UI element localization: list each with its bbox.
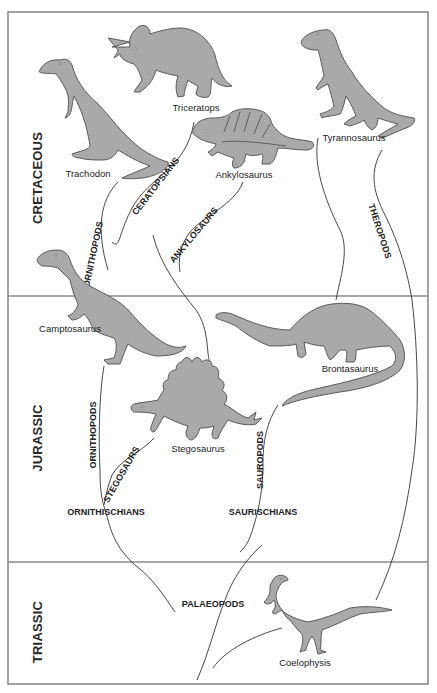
brontasaurus-label: Brontasaurus bbox=[322, 363, 379, 374]
group-label-ornithopods-lower: ORNITHOPODS bbox=[88, 401, 98, 468]
triceratops-label: Triceratops bbox=[172, 102, 219, 113]
stegosaurus-label: Stegosaurus bbox=[171, 443, 225, 454]
trachodon-label: Trachodon bbox=[65, 168, 110, 179]
branch-coelophysis bbox=[213, 628, 282, 668]
triceratops-silhouette bbox=[108, 25, 232, 97]
ankylosaurus-silhouette bbox=[193, 109, 314, 168]
branch-palaeopods bbox=[197, 545, 262, 680]
period-label-cretaceous: CRETACEOUS bbox=[30, 132, 45, 224]
group-label-palaeopods: PALAEOPODS bbox=[182, 599, 244, 609]
dinosaur-evolution-diagram: CRETACEOUS JURASSIC TRIASSIC ORNITHOPODS… bbox=[0, 0, 437, 693]
group-label-ornithischians: ORNITHISCHIANS bbox=[67, 507, 145, 517]
stegosaurus-silhouette bbox=[131, 358, 262, 441]
tyrannosaurus-label: Tyrannosaurus bbox=[323, 132, 386, 143]
camptosaurus-silhouette bbox=[37, 250, 186, 364]
group-label-stegosaurs: STEGOSAURS bbox=[101, 445, 141, 505]
group-label-sauropods: SAUROPODS bbox=[255, 431, 265, 489]
coelophysis-label: Coelophysis bbox=[279, 657, 331, 668]
group-label-ornithopods-upper: ORNITHOPODS bbox=[81, 221, 105, 289]
period-label-triassic: TRIASSIC bbox=[30, 600, 45, 663]
period-label-jurassic: JURASSIC bbox=[30, 404, 45, 472]
branch-theropod-sauropod-link bbox=[317, 138, 345, 300]
camptosaurus-label: Camptosaurus bbox=[39, 323, 101, 334]
group-label-saurischians: SAURISCHIANS bbox=[229, 507, 298, 517]
group-label-ankylosaurs: ANKYLOSAURS bbox=[168, 205, 220, 265]
coelophysis-silhouette bbox=[264, 575, 392, 654]
group-label-theropods: THEROPODS bbox=[366, 202, 393, 259]
branch-ankylosaurs bbox=[179, 182, 243, 272]
tyrannosaurus-silhouette bbox=[301, 30, 414, 138]
ankylosaurus-label: Ankylosaurus bbox=[215, 169, 272, 180]
brontasaurus-silhouette bbox=[216, 303, 405, 406]
